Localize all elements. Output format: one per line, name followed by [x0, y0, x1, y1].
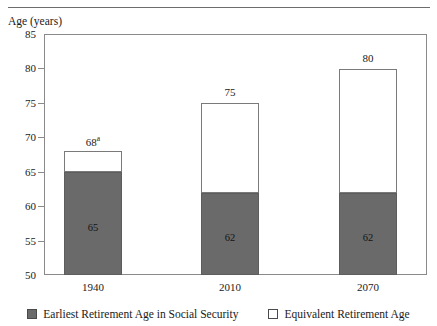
- bar-1940-total-label: 68a: [63, 135, 123, 148]
- bar-2070-earliest-value: 62: [338, 232, 398, 243]
- y-tick-mark-65: [38, 172, 44, 173]
- y-tick-label-55: 55: [6, 236, 36, 247]
- y-tick-mark-55: [38, 241, 44, 242]
- dark-gray-swatch-icon: [27, 309, 37, 319]
- chart-figure: Age (years) 85 80 75 70 65 60 55 50 68a …: [0, 0, 437, 326]
- x-tick-label-2070: 2070: [338, 281, 398, 293]
- y-tick-label-65: 65: [6, 167, 36, 178]
- white-swatch-icon: [268, 309, 278, 319]
- bar-1940-earliest-value: 65: [63, 222, 123, 233]
- y-tick-label-75: 75: [6, 98, 36, 109]
- y-tick-mark-80: [38, 68, 44, 69]
- bar-2070-equivalent-segment[interactable]: [339, 69, 397, 193]
- chart-legend: Earliest Retirement Age in Social Securi…: [0, 305, 437, 323]
- y-tick-mark-70: [38, 137, 44, 138]
- legend-item-equivalent-retirement-age[interactable]: Equivalent Retirement Age: [268, 308, 409, 320]
- bar-2010-total-label: 75: [200, 87, 260, 98]
- y-tick-label-85: 85: [6, 29, 36, 40]
- y-tick-label-80: 80: [6, 63, 36, 74]
- bar-1940-equivalent-segment[interactable]: [64, 151, 122, 172]
- y-tick-mark-60: [38, 206, 44, 207]
- legend-label-equivalent-retirement-age: Equivalent Retirement Age: [284, 308, 409, 320]
- y-tick-label-50: 50: [6, 270, 36, 281]
- y-tick-mark-75: [38, 103, 44, 104]
- y-tick-label-70: 70: [6, 132, 36, 143]
- bar-1940-footnote-marker: a: [97, 134, 100, 143]
- x-tick-label-2010: 2010: [200, 281, 260, 293]
- bar-2010-earliest-value: 62: [200, 232, 260, 243]
- bar-2070-total-label: 80: [338, 53, 398, 64]
- legend-item-earliest-retirement-age[interactable]: Earliest Retirement Age in Social Securi…: [27, 308, 238, 320]
- legend-label-earliest-retirement-age: Earliest Retirement Age in Social Securi…: [43, 308, 238, 320]
- bar-2010-equivalent-segment[interactable]: [201, 103, 259, 193]
- top-divider-rule: [8, 7, 430, 8]
- y-tick-label-60: 60: [6, 201, 36, 212]
- x-tick-label-1940: 1940: [63, 281, 123, 293]
- y-axis-title: Age (years): [8, 15, 62, 28]
- bar-1940-total-value: 68: [86, 136, 97, 148]
